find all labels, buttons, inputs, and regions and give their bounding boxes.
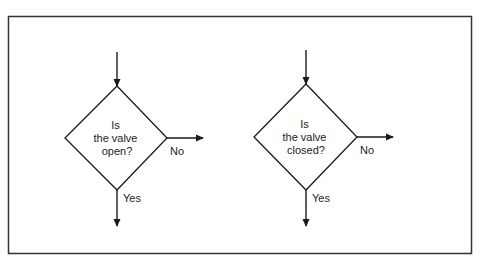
no-label: No — [170, 145, 184, 157]
yes-label: Yes — [123, 192, 141, 204]
question-line: the valve — [282, 131, 326, 143]
no-label: No — [360, 144, 374, 156]
yes-label: Yes — [312, 192, 330, 204]
question-line: open? — [102, 145, 133, 157]
question-line: Is — [111, 119, 120, 131]
question-line: Is — [300, 118, 309, 130]
question-line: the valve — [93, 132, 137, 144]
flowchart-diagram: Is the valve open? No Yes Is the valve c… — [0, 0, 482, 264]
question-line: closed? — [287, 144, 325, 156]
